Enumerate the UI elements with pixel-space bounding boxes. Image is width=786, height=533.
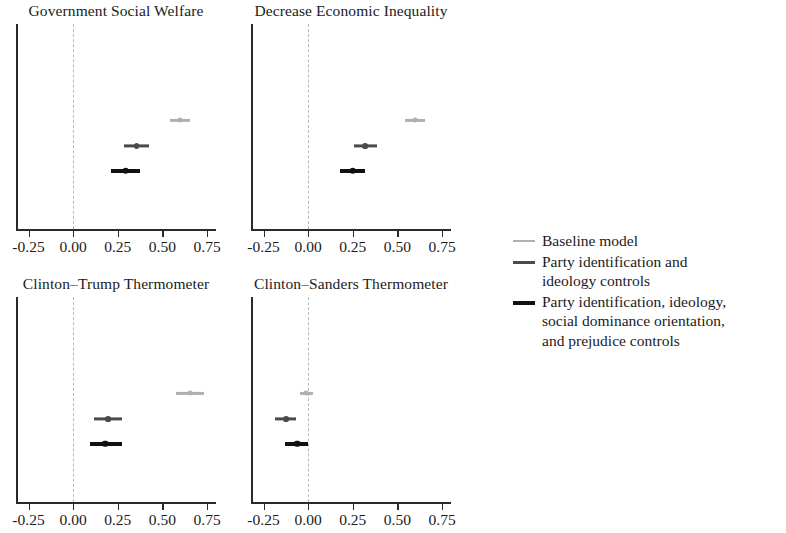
- panel-4: Clinton–Sanders Thermometer-0.250.000.25…: [251, 275, 491, 530]
- x-axis-tick-label: -0.25: [247, 511, 279, 529]
- estimate-marker: [16, 163, 216, 179]
- estimate-marker: [251, 112, 451, 128]
- x-axis-tick-label: 0.25: [339, 238, 366, 256]
- point-estimate-dot: [283, 416, 289, 422]
- x-axis-tick: [308, 231, 309, 237]
- x-axis-tick: [207, 231, 208, 237]
- estimate-marker: [16, 112, 216, 128]
- panel-title: Decrease Economic Inequality: [251, 2, 451, 20]
- x-axis-tick: [207, 504, 208, 510]
- x-axis-tick: [308, 504, 309, 510]
- x-axis-tick-label: 0.00: [295, 238, 322, 256]
- panel-title: Clinton–Sanders Thermometer: [251, 275, 451, 293]
- x-axis-line: [251, 229, 451, 231]
- legend-item: Party identification and ideology contro…: [513, 252, 781, 291]
- x-axis-tick: [29, 231, 30, 237]
- x-axis-tick-label: 0.50: [384, 238, 411, 256]
- legend: Baseline modelParty identification and i…: [513, 231, 781, 351]
- x-axis-tick-label: -0.25: [12, 511, 44, 529]
- x-axis-tick-label: -0.25: [12, 238, 44, 256]
- point-estimate-dot: [178, 118, 183, 123]
- point-estimate-dot: [102, 440, 109, 447]
- x-axis-tick-label: -0.25: [247, 238, 279, 256]
- legend-item: Baseline model: [513, 231, 781, 251]
- point-estimate-dot: [123, 167, 130, 174]
- estimate-marker: [16, 411, 216, 427]
- x-axis-tick-label: 0.25: [104, 511, 131, 529]
- x-axis-line: [16, 229, 216, 231]
- x-axis-tick: [162, 231, 163, 237]
- x-axis-tick: [264, 231, 265, 237]
- x-axis-tick-label: 0.25: [104, 238, 131, 256]
- x-axis-tick: [118, 504, 119, 510]
- x-axis-tick-label: 0.00: [295, 511, 322, 529]
- x-axis-tick: [118, 231, 119, 237]
- point-estimate-dot: [134, 143, 140, 149]
- x-axis-tick-label: 0.75: [194, 511, 221, 529]
- estimate-marker: [16, 436, 216, 452]
- estimate-marker: [251, 138, 451, 154]
- panel-2: Decrease Economic Inequality-0.250.000.2…: [251, 2, 491, 257]
- legend-item-label: Party identification and ideology contro…: [542, 252, 688, 291]
- x-axis-tick-label: 0.00: [60, 511, 87, 529]
- x-axis-tick-label: 0.50: [149, 238, 176, 256]
- panel-1: Government Social Welfare-0.250.000.250.…: [16, 2, 256, 257]
- legend-item-label: Baseline model: [542, 231, 638, 251]
- point-estimate-dot: [294, 440, 301, 447]
- panel-title: Government Social Welfare: [16, 2, 216, 20]
- estimate-marker: [16, 385, 216, 401]
- estimate-marker: [16, 138, 216, 154]
- point-estimate-dot: [304, 391, 309, 396]
- x-axis-tick-label: 0.50: [149, 511, 176, 529]
- point-estimate-dot: [188, 391, 193, 396]
- panel-3: Clinton–Trump Thermometer-0.250.000.250.…: [16, 275, 256, 530]
- x-axis-tick-label: 0.75: [429, 238, 456, 256]
- x-axis-tick: [162, 504, 163, 510]
- legend-line-swatch: [513, 240, 535, 242]
- point-estimate-dot: [413, 118, 418, 123]
- point-estimate-dot: [349, 167, 356, 174]
- x-axis-tick-label: 0.25: [339, 511, 366, 529]
- panel-title: Clinton–Trump Thermometer: [16, 275, 216, 293]
- legend-item: Party identification, ideology, social d…: [513, 292, 781, 351]
- x-axis-tick: [29, 504, 30, 510]
- legend-line-swatch: [513, 301, 535, 305]
- x-axis-tick: [73, 231, 74, 237]
- estimate-marker: [251, 163, 451, 179]
- plot-area: -0.250.000.250.500.75: [16, 24, 216, 229]
- estimate-marker: [251, 436, 451, 452]
- x-axis-tick-label: 0.75: [429, 511, 456, 529]
- x-axis-line: [16, 502, 216, 504]
- x-axis-tick: [353, 231, 354, 237]
- plot-area: -0.250.000.250.500.75: [251, 24, 451, 229]
- x-axis-tick: [264, 504, 265, 510]
- estimate-marker: [251, 385, 451, 401]
- x-axis-tick: [442, 231, 443, 237]
- plot-area: -0.250.000.250.500.75: [251, 297, 451, 502]
- estimate-marker: [251, 411, 451, 427]
- legend-line-swatch: [513, 261, 535, 264]
- x-axis-tick: [73, 504, 74, 510]
- x-axis-tick: [353, 504, 354, 510]
- point-estimate-dot: [105, 416, 111, 422]
- x-axis-tick: [397, 231, 398, 237]
- x-axis-tick-label: 0.50: [384, 511, 411, 529]
- x-axis-line: [251, 502, 451, 504]
- x-axis-tick: [397, 504, 398, 510]
- x-axis-tick-label: 0.00: [60, 238, 87, 256]
- x-axis-tick-label: 0.75: [194, 238, 221, 256]
- coefficient-plot-figure: Government Social Welfare-0.250.000.250.…: [0, 0, 786, 533]
- plot-area: -0.250.000.250.500.75: [16, 297, 216, 502]
- x-axis-tick: [442, 504, 443, 510]
- point-estimate-dot: [362, 143, 368, 149]
- legend-item-label: Party identification, ideology, social d…: [542, 292, 726, 351]
